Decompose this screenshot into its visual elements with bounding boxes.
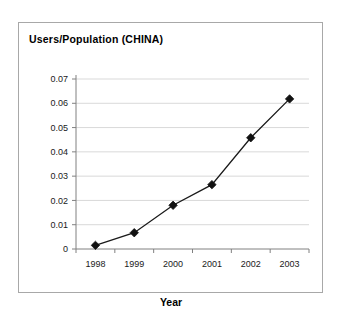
data-point-marker	[169, 201, 177, 209]
x-tick-labels-group: 199819992000200120022003	[85, 259, 299, 269]
gridlines-group	[76, 79, 309, 225]
x-tick-label: 1998	[85, 259, 105, 269]
x-tick-label: 2003	[280, 259, 300, 269]
line-chart-plot: 00.010.020.030.040.050.060.07 1998199920…	[19, 23, 322, 292]
x-tick-label: 1999	[124, 259, 144, 269]
x-tick-label: 2000	[163, 259, 183, 269]
y-tick-label: 0.05	[50, 123, 68, 133]
data-markers-group	[91, 95, 294, 250]
y-tick-label: 0.04	[50, 147, 68, 157]
y-tick-label: 0.02	[50, 196, 68, 206]
x-tick-marks-group	[76, 249, 309, 253]
x-tick-label: 2001	[202, 259, 222, 269]
x-axis-title: Year	[0, 296, 342, 308]
data-series-line	[95, 99, 289, 245]
data-point-marker	[91, 241, 99, 249]
y-tick-marks-group	[72, 79, 76, 249]
y-tick-label: 0.07	[50, 74, 68, 84]
y-tick-label: 0.03	[50, 171, 68, 181]
y-tick-label: 0.01	[50, 220, 68, 230]
y-tick-label: 0.06	[50, 98, 68, 108]
data-point-marker	[130, 229, 138, 237]
y-tick-labels-group: 00.010.020.030.040.050.060.07	[50, 74, 68, 254]
x-tick-label: 2002	[241, 259, 261, 269]
y-tick-label: 0	[63, 244, 68, 254]
chart-frame: Users/Population (CHINA) 00.010.020.030.…	[18, 22, 323, 293]
